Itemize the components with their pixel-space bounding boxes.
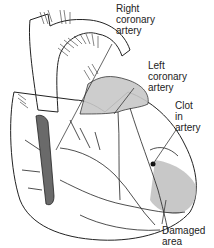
label-right-coronary-artery: Right coronary artery xyxy=(116,3,155,36)
label-clot-in-artery: Clot in artery xyxy=(175,100,201,133)
label-left-coronary-artery: Left coronary artery xyxy=(148,60,187,93)
right-coronary-vessel xyxy=(36,115,54,204)
label-damaged-area: Damaged area xyxy=(162,225,205,247)
pulmonary-trunk xyxy=(80,77,148,114)
